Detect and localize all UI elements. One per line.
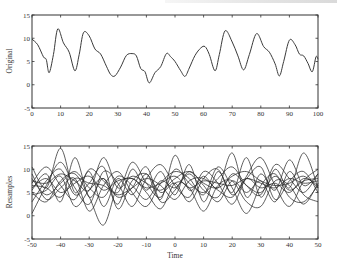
resamples-panel: -50-40-30-20-1001020304050-5051015 Resam… (5, 143, 322, 261)
resamples-xtick-label: 10 (200, 241, 208, 249)
resamples-ytick-label: 0 (27, 212, 31, 220)
original-ytick-label: 15 (23, 12, 31, 20)
original-ticks: 0102030405060708090100-5051015 (23, 12, 324, 119)
resamples-xtick-label: -30 (85, 241, 95, 249)
resamples-xtick-label: 0 (173, 241, 177, 249)
original-series-line (32, 29, 318, 83)
original-ytick-label: -5 (24, 105, 30, 113)
resamples-xlabel: Time (167, 251, 183, 260)
resamples-series (32, 148, 318, 225)
figure: 0102030405060708090100-5051015 Original … (0, 0, 337, 267)
original-xtick-label: 90 (286, 110, 294, 118)
original-ylabel: Original (5, 49, 14, 74)
original-xtick-label: 60 (200, 110, 208, 118)
original-xtick-label: 70 (229, 110, 237, 118)
original-xtick-label: 0 (30, 110, 34, 118)
resamples-ytick-label: 15 (23, 143, 31, 151)
original-xtick-label: 50 (172, 110, 180, 118)
resamples-ylabel: Resamples (5, 176, 14, 209)
original-xtick-label: 40 (143, 110, 151, 118)
resamples-xtick-label: 50 (315, 241, 323, 249)
resamples-ytick-label: -5 (24, 236, 30, 244)
resample-line-9 (32, 167, 318, 207)
resamples-ytick-label: 5 (27, 189, 31, 197)
resamples-xtick-label: 30 (257, 241, 265, 249)
original-series (32, 29, 318, 83)
resample-line-1 (32, 148, 318, 206)
original-xtick-label: 30 (114, 110, 122, 118)
original-ytick-label: 0 (27, 81, 31, 89)
original-panel: 0102030405060708090100-5051015 Original (5, 12, 324, 119)
resamples-xtick-label: -40 (56, 241, 66, 249)
original-xtick-label: 100 (313, 110, 324, 118)
resamples-xtick-label: -10 (142, 241, 152, 249)
resamples-ytick-label: 10 (23, 166, 31, 174)
original-xtick-label: 10 (57, 110, 65, 118)
original-xtick-label: 80 (257, 110, 265, 118)
resamples-xtick-label: 40 (286, 241, 294, 249)
original-xtick-label: 20 (86, 110, 94, 118)
resamples-xtick-label: 20 (229, 241, 237, 249)
resamples-xtick-label: -20 (113, 241, 123, 249)
original-ytick-label: 10 (23, 35, 31, 43)
original-ytick-label: 5 (27, 58, 31, 66)
